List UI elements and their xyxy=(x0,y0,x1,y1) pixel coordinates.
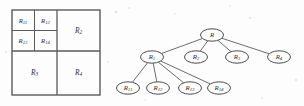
region-label-r14: R14 xyxy=(40,37,50,46)
tree-edge-r-to-r3 xyxy=(218,40,231,51)
tree-node-r2: R2 xyxy=(185,51,208,63)
region-label-r4: R4 xyxy=(74,68,83,78)
rectangle-partition-diagram: R11R12R13R14R2R3R4 xyxy=(12,10,100,95)
region-label-r2: R2 xyxy=(74,25,83,35)
scan-speck xyxy=(107,61,109,63)
region-label-r12: R12 xyxy=(40,16,50,25)
scan-speck xyxy=(115,11,117,13)
scan-speck xyxy=(5,51,7,53)
figure-canvas: R11R12R13R14R2R3R4 RR1R2R3R4R11R12R13R14 xyxy=(0,0,304,106)
tree-nodes: RR1R2R3R4R11R12R13R14 xyxy=(117,29,291,94)
tree-edge-r-to-r2 xyxy=(200,41,208,51)
tree-node-r3: R3 xyxy=(226,51,249,63)
node-label-r: R xyxy=(209,31,215,38)
tree-edge-r1-to-r13 xyxy=(158,62,183,83)
scan-speck xyxy=(128,7,130,9)
scan-speck xyxy=(229,5,230,6)
tree-node-r13: R13 xyxy=(179,82,202,94)
tree-node-r: R xyxy=(201,29,224,41)
region-label-r11: R11 xyxy=(18,16,27,25)
tree-edge-r-to-r4 xyxy=(222,38,269,54)
scan-speck xyxy=(249,17,251,19)
tree-node-r11: R11 xyxy=(117,82,140,94)
scan-speck xyxy=(144,99,145,100)
scan-speck xyxy=(295,79,297,81)
tree-edge-r1-to-r11 xyxy=(132,63,147,83)
region-label-r13: R13 xyxy=(18,37,28,46)
tree-node-r12: R12 xyxy=(147,82,170,94)
tree-edge-r1-to-r12 xyxy=(153,63,157,82)
scan-speck xyxy=(261,97,263,99)
tree-node-r4: R4 xyxy=(268,51,291,63)
tree-node-r14: R14 xyxy=(208,82,231,94)
figure-container: R11R12R13R14R2R3R4 RR1R2R3R4R11R12R13R14 xyxy=(0,0,304,106)
region-label-r3: R3 xyxy=(30,68,39,78)
tree-edge-r1-to-r14 xyxy=(161,61,211,84)
scan-speck xyxy=(174,13,175,14)
tree-node-r1: R1 xyxy=(141,51,164,63)
